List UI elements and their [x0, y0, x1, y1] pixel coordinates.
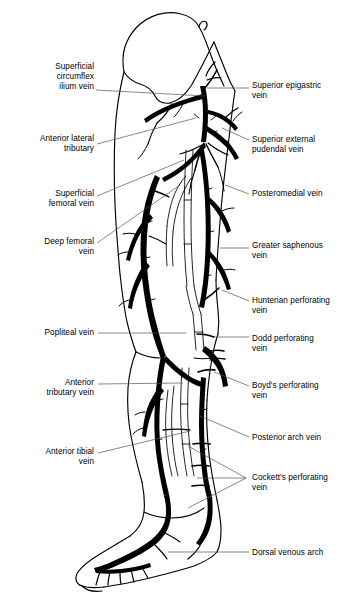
label-deep-femoral-vein: Deep femoral vein [16, 237, 94, 257]
label-posteromedial-vein: Posteromedial vein [252, 189, 342, 199]
label-anterior-tributary-vein: Anterior tributary vein [18, 378, 94, 398]
label-superior-epigastric-vein: Superior epigastric vein [252, 81, 342, 101]
dorsal-venous-arch [94, 494, 213, 585]
greater-saphenous-trunk [118, 175, 169, 359]
label-superior-external-pudendal-vein: Superior external pudendal vein [252, 135, 342, 155]
label-boyds-perforating-vein: Boyd's perforating vein [252, 381, 342, 401]
leader-posteromedial-vein [225, 185, 249, 194]
leader-anterior-tributary-vein [98, 383, 183, 384]
label-hunterian-perforating-vein: Hunterian perforating vein [252, 296, 342, 316]
label-greater-saphenous-vein: Greater saphenous vein [252, 241, 342, 261]
label-superficial-femoral-vein: Superficial femoral vein [22, 189, 94, 209]
label-dodd-perforating-vein: Dodd perforating vein [252, 334, 342, 354]
label-anterior-tibial-vein: Anterior tibial vein [16, 447, 94, 467]
label-anterior-lateral-tributary: Anterior lateral tributary [8, 134, 94, 154]
posteromedial-trunk [199, 149, 235, 308]
label-cocketts-perforating-vein: Cockett's perforating vein [252, 473, 342, 493]
leader-boyds-perforating-vein [214, 372, 249, 386]
label-superficial-circumflex-ilium-vein: Superficial circumflex ilium vein [18, 62, 94, 93]
label-posterior-arch-vein: Posterior arch vein [252, 433, 342, 443]
label-dorsal-venous-arch: Dorsal venous arch [252, 548, 342, 558]
leader-superficial-circumflex-ilium-vein [96, 90, 205, 96]
leader-hunterian-perforating-vein [222, 290, 249, 301]
label-popliteal-vein: Popliteal vein [16, 328, 94, 338]
calf-veins [133, 356, 215, 498]
saphenofemoral-junction [138, 62, 242, 194]
popliteal-system [163, 288, 228, 387]
